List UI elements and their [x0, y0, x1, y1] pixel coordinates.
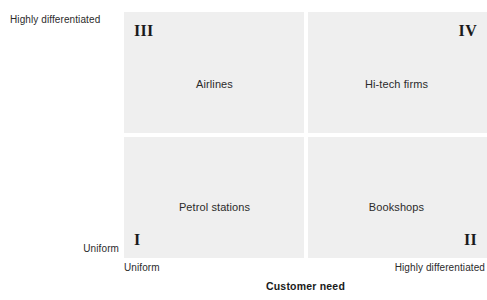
horizontal-divider — [124, 133, 487, 137]
quadrant-numeral-bottom-right: II — [464, 232, 477, 248]
quadrant-matrix-figure: Customer valuations Highly differentiate… — [0, 0, 487, 300]
x-axis-left-label: Uniform — [124, 262, 160, 273]
x-axis-right-label: Highly differentiated — [395, 262, 485, 273]
quadrant-numeral-top-right: IV — [459, 23, 477, 39]
x-axis-title: Customer need — [124, 280, 487, 292]
quadrant-label-petrol-stations: Petrol stations — [124, 201, 305, 213]
y-axis-bottom-label: Uniform — [83, 243, 119, 254]
quadrant-label-bookshops: Bookshops — [306, 201, 487, 213]
y-axis-top-label: Highly differentiated — [10, 14, 100, 25]
quadrant-numeral-top-left: III — [134, 23, 154, 39]
quadrant-bottom-right — [306, 135, 487, 258]
quadrant-bottom-left — [124, 135, 306, 258]
plot-area: III IV I II Airlines Hi-tech firms Petro… — [124, 12, 487, 258]
quadrant-label-hi-tech-firms: Hi-tech firms — [306, 78, 487, 90]
quadrant-numeral-bottom-left: I — [134, 232, 141, 248]
quadrant-label-airlines: Airlines — [124, 78, 305, 90]
